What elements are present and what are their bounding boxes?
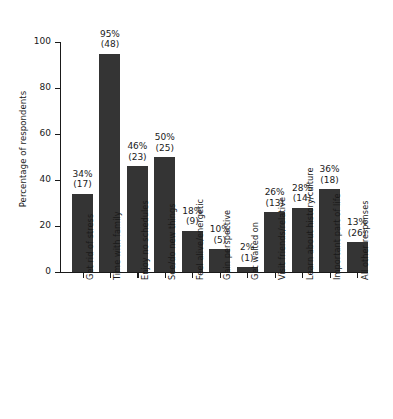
- x-axis-category-label: Enjoy no schedules: [141, 200, 150, 280]
- y-axis-tick: 60: [55, 134, 60, 135]
- bar-chart-figure: Percentage of respondents 020406080100 3…: [0, 0, 393, 419]
- y-axis-tick: 20: [55, 226, 60, 227]
- y-axis-tick: 100: [55, 42, 60, 43]
- x-axis-tick: [165, 273, 166, 278]
- x-axis-tick: [275, 273, 276, 278]
- x-axis-tick: [110, 273, 111, 278]
- y-axis-tick: 0: [55, 272, 60, 273]
- bar-count-value: (25): [143, 143, 187, 154]
- x-axis-category-label: Gain perspective: [223, 210, 232, 280]
- bar-value-label: 34%(17): [61, 169, 105, 190]
- bar-count-value: (48): [88, 39, 132, 50]
- x-axis-category-label: Get rid of stress: [86, 214, 95, 280]
- x-axis-tick: [302, 273, 303, 278]
- y-axis-tick-label: 100: [34, 36, 51, 46]
- x-axis-tick: [330, 273, 331, 278]
- x-axis-tick: [83, 273, 84, 278]
- bar-percent-value: 50%: [143, 132, 187, 143]
- x-axis-tick: [220, 273, 221, 278]
- x-axis-category-label: Get waited on: [251, 222, 260, 280]
- x-axis-tick: [247, 273, 248, 278]
- x-axis-category-label: Time with family: [113, 211, 122, 280]
- x-axis-category-label: See/do new things: [168, 203, 177, 280]
- y-axis-tick-label: 0: [45, 266, 51, 276]
- bar-count-value: (23): [115, 152, 159, 163]
- bar-value-label: 95%(48): [88, 29, 132, 50]
- x-axis-category-label: Important part of life: [333, 193, 342, 280]
- y-axis-tick: 80: [55, 88, 60, 89]
- x-axis-tick: [192, 273, 193, 278]
- x-axis-category-label: Learn about history/culture: [306, 167, 315, 280]
- y-axis-tick-label: 80: [40, 82, 51, 92]
- bar-percent-value: 95%: [88, 29, 132, 40]
- y-axis-title: Percentage of respondents: [18, 64, 28, 234]
- x-axis-category-label: Feel alive/energetic: [196, 199, 205, 280]
- y-axis-tick-label: 40: [40, 174, 51, 184]
- bar-percent-value: 34%: [61, 169, 105, 180]
- y-axis-tick: 40: [55, 180, 60, 181]
- bar-count-value: (17): [61, 179, 105, 190]
- x-axis-line: [60, 272, 368, 273]
- y-axis-tick-label: 60: [40, 128, 51, 138]
- x-axis-tick: [357, 273, 358, 278]
- x-axis-category-label: Visit friends/relative: [278, 197, 287, 280]
- y-axis-line: [60, 42, 61, 272]
- bar-value-label: 50%(25): [143, 132, 187, 153]
- y-axis-tick-label: 20: [40, 220, 51, 230]
- x-axis-category-label: All other responses: [361, 200, 370, 280]
- plot-area: 020406080100 34%(17)95%(48)46%(23)50%(25…: [60, 42, 368, 272]
- x-axis-tick: [137, 273, 138, 278]
